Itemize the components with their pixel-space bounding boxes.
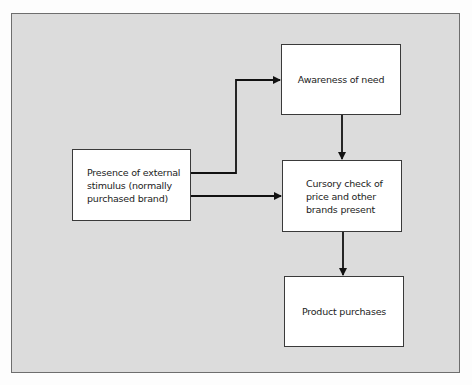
- node-awareness-label: Awareness of need: [298, 73, 385, 86]
- diagram-canvas: Presence of external stimulus (normally …: [0, 0, 472, 385]
- node-stimulus: Presence of external stimulus (normally …: [72, 149, 191, 221]
- node-purchase: Product purchases: [284, 276, 404, 347]
- node-stimulus-label: Presence of external stimulus (normally …: [87, 166, 180, 205]
- node-cursory-check-label: Cursory check of price and other brands …: [306, 177, 383, 216]
- node-cursory-check: Cursory check of price and other brands …: [282, 160, 402, 232]
- node-purchase-label: Product purchases: [302, 305, 386, 318]
- node-awareness: Awareness of need: [281, 44, 401, 115]
